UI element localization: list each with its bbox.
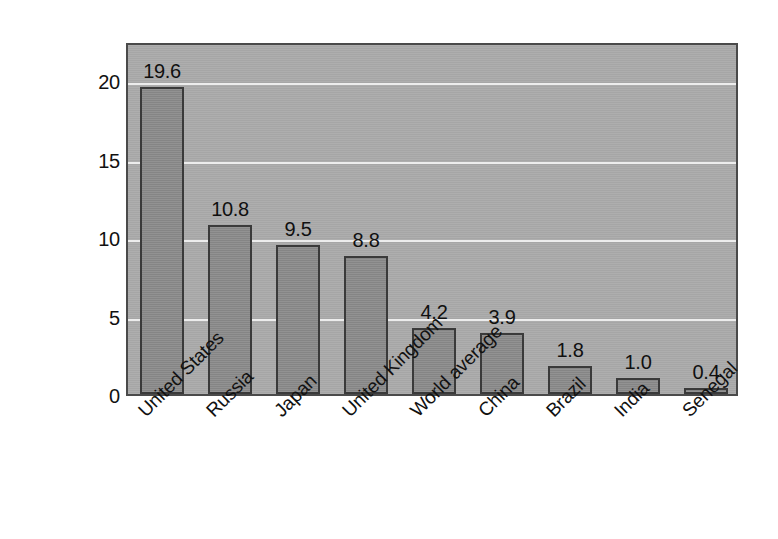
y-axis-tick-labels: 05101520 [78, 0, 120, 539]
bar-slot: 0.4 [672, 45, 740, 394]
bar-value-label: 19.6 [143, 60, 181, 83]
bar[interactable] [276, 245, 320, 394]
bar-value-label: 1.8 [557, 339, 584, 362]
x-axis-category-labels: United StatesRussiaJapanUnited KingdomWo… [126, 396, 738, 539]
bar-chart-figure: Metric tons of carbon dioxide per person… [0, 0, 778, 539]
y-axis-tick-label: 15 [80, 149, 120, 172]
bar-slot: 1.0 [604, 45, 672, 394]
y-axis-tick-label: 5 [80, 306, 120, 329]
y-axis-tick-label: 0 [80, 385, 120, 408]
bar-slot: 8.8 [332, 45, 400, 394]
bar-slot: 19.6 [128, 45, 196, 394]
bar-slot: 9.5 [264, 45, 332, 394]
y-axis-tick-label: 20 [80, 71, 120, 94]
bar[interactable] [140, 87, 184, 395]
bar-value-label: 9.5 [285, 218, 312, 241]
y-axis-tick-label: 10 [80, 228, 120, 251]
bar-value-label: 8.8 [353, 229, 380, 252]
bar-slot: 1.8 [536, 45, 604, 394]
bar-value-label: 1.0 [625, 351, 652, 374]
bar-value-label: 10.8 [211, 198, 249, 221]
